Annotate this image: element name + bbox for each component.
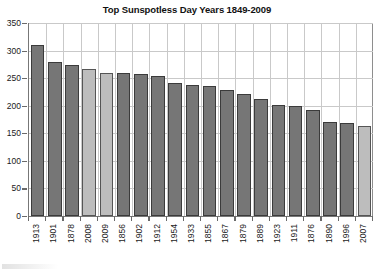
y-tick-label: 250 xyxy=(7,73,21,83)
bar[interactable] xyxy=(306,110,320,216)
x-tick-label: 1923 xyxy=(273,224,282,243)
bar[interactable] xyxy=(151,76,165,216)
x-tick-label: 1867 xyxy=(221,224,230,243)
bar[interactable] xyxy=(48,62,62,216)
sunspot-bar-chart: Top Sunspotless Day Years 1849-2009 0501… xyxy=(0,0,374,270)
y-axis: 050100150200250300350 xyxy=(0,0,28,230)
bar[interactable] xyxy=(168,83,182,216)
x-tick-label: 1912 xyxy=(153,224,162,243)
plot-area xyxy=(28,23,373,217)
y-tick-label: 350 xyxy=(7,18,21,28)
bar[interactable] xyxy=(272,105,286,216)
bar[interactable] xyxy=(186,85,200,216)
bar[interactable] xyxy=(323,122,337,216)
x-tick-mark xyxy=(252,216,253,221)
x-tick-mark xyxy=(355,216,356,221)
x-tick-label: 1911 xyxy=(290,224,299,242)
x-tick-mark xyxy=(114,216,115,221)
y-tick-mark xyxy=(22,133,27,134)
y-tick-mark xyxy=(22,23,27,24)
x-tick-label: 2007 xyxy=(359,224,368,243)
bar[interactable] xyxy=(31,45,45,217)
x-tick-mark xyxy=(80,216,81,221)
x-tick-label: 1913 xyxy=(32,224,41,243)
bar[interactable] xyxy=(117,73,131,216)
x-axis: 1913190118782008200918561902191219541933… xyxy=(28,216,372,270)
x-tick-mark xyxy=(183,216,184,221)
y-tick-mark xyxy=(22,161,27,162)
x-tick-mark xyxy=(234,216,235,221)
x-tick-label: 1996 xyxy=(342,224,351,243)
x-tick-label: 1855 xyxy=(204,224,213,243)
x-tick-label: 1876 xyxy=(307,224,316,243)
bar[interactable] xyxy=(358,126,372,216)
bars-layer xyxy=(29,23,373,216)
x-tick-mark xyxy=(97,216,98,221)
chart-title: Top Sunspotless Day Years 1849-2009 xyxy=(0,4,374,15)
x-tick-label: 1879 xyxy=(239,224,248,243)
x-tick-mark xyxy=(303,216,304,221)
bar[interactable] xyxy=(203,86,217,216)
x-tick-label: 1954 xyxy=(170,224,179,243)
x-tick-mark xyxy=(45,216,46,221)
bar[interactable] xyxy=(82,69,96,216)
x-tick-mark xyxy=(62,216,63,221)
y-tick-label: 200 xyxy=(7,101,21,111)
bar[interactable] xyxy=(220,90,234,216)
y-tick-label: 50 xyxy=(12,183,21,193)
y-tick-mark xyxy=(22,106,27,107)
x-tick-mark xyxy=(286,216,287,221)
x-tick-label: 1902 xyxy=(135,224,144,243)
y-tick-mark xyxy=(22,78,27,79)
x-tick-label: 1933 xyxy=(187,224,196,243)
x-tick-label: 1901 xyxy=(49,224,58,243)
x-tick-mark xyxy=(372,216,373,221)
bar[interactable] xyxy=(254,99,268,217)
y-tick-label: 300 xyxy=(7,46,21,56)
x-tick-label: 1889 xyxy=(256,224,265,243)
y-tick-label: 100 xyxy=(7,156,21,166)
bar[interactable] xyxy=(340,123,354,216)
x-tick-mark xyxy=(320,216,321,221)
x-tick-label: 1878 xyxy=(67,224,76,243)
bar[interactable] xyxy=(237,94,251,216)
x-tick-mark xyxy=(131,216,132,221)
x-tick-mark xyxy=(200,216,201,221)
y-tick-label: 0 xyxy=(16,211,21,221)
x-tick-mark xyxy=(338,216,339,221)
x-tick-label: 2009 xyxy=(101,224,110,243)
x-tick-mark xyxy=(28,216,29,221)
scan-artifact xyxy=(2,264,58,269)
x-tick-mark xyxy=(269,216,270,221)
x-tick-label: 1856 xyxy=(118,224,127,243)
x-tick-label: 2008 xyxy=(84,224,93,243)
bar[interactable] xyxy=(289,106,303,216)
bar[interactable] xyxy=(100,73,114,216)
y-tick-label: 150 xyxy=(7,128,21,138)
y-tick-mark xyxy=(22,216,27,217)
bar[interactable] xyxy=(65,65,79,216)
bar[interactable] xyxy=(134,74,148,216)
y-tick-mark xyxy=(22,51,27,52)
x-tick-mark xyxy=(217,216,218,221)
x-tick-mark xyxy=(148,216,149,221)
x-tick-mark xyxy=(166,216,167,221)
y-tick-mark xyxy=(22,188,27,189)
x-tick-label: 1890 xyxy=(325,224,334,243)
